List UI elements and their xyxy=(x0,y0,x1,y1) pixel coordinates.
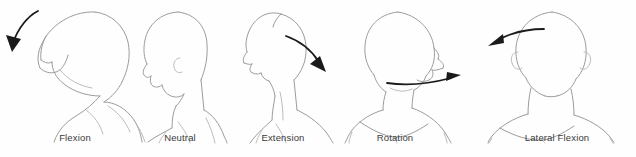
panel-lateral-flexion-drawing xyxy=(488,12,614,143)
panel-label-lateral-flexion: Lateral Flexion xyxy=(525,133,590,143)
panel-flexion-drawing xyxy=(38,12,145,142)
panel-rotation-drawing xyxy=(345,12,451,143)
flexion-arrow xyxy=(6,11,38,52)
range-of-motion-figure: Flexion Neutral Extension Rotation Later… xyxy=(0,0,636,157)
panel-label-rotation: Rotation xyxy=(377,133,414,143)
panel-label-flexion: Flexion xyxy=(59,133,91,143)
rotation-arrow xyxy=(387,72,461,84)
panel-neutral-drawing xyxy=(143,12,227,143)
panel-label-neutral: Neutral xyxy=(164,133,196,143)
lateral-flexion-arrow xyxy=(488,29,544,46)
panel-extension-drawing xyxy=(243,13,333,143)
panel-label-extension: Extension xyxy=(261,133,304,143)
